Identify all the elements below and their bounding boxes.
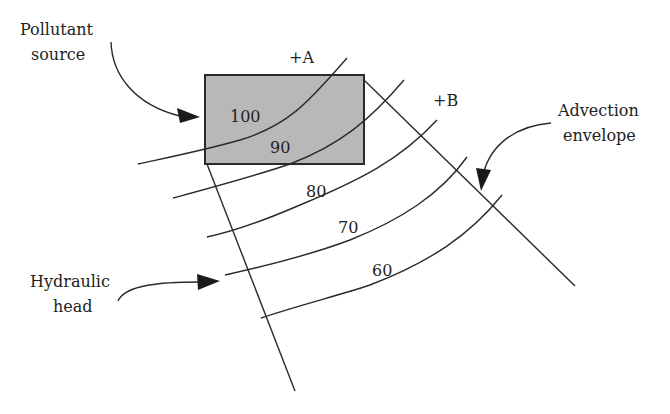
advection-envelope-label-line2: envelope xyxy=(563,126,636,145)
point-a-label: +A xyxy=(289,48,314,67)
advection-envelope-label-line1: Advection xyxy=(557,101,639,120)
contour-label-70: 70 xyxy=(338,218,358,237)
hydraulic-head-label-line1: Hydraulic xyxy=(30,272,110,291)
contour-label-100: 100 xyxy=(230,107,261,126)
pollutant-source-arrow xyxy=(111,42,180,116)
advection-envelope-right-line xyxy=(364,80,575,286)
hydraulic-head-label-line2: head xyxy=(53,297,93,316)
hydraulic-head-diagram: 100 90 80 70 60 +A +B Pollutant source A… xyxy=(0,0,670,414)
hydraulic-head-arrowhead-icon xyxy=(197,274,220,290)
hydraulic-head-arrow xyxy=(118,282,200,301)
advection-envelope-arrowhead-icon xyxy=(476,168,491,191)
advection-envelope-arrow xyxy=(483,123,551,175)
pollutant-source-label-line2: source xyxy=(31,45,85,64)
advection-envelope-left-line xyxy=(207,164,295,391)
contour-label-80: 80 xyxy=(306,182,326,201)
pollutant-source-arrowhead-icon xyxy=(177,108,200,123)
contour-70 xyxy=(225,157,467,275)
pollutant-source-label-line1: Pollutant xyxy=(20,20,94,39)
contour-label-60: 60 xyxy=(372,261,392,280)
point-b-label: +B xyxy=(433,91,458,110)
contour-label-90: 90 xyxy=(270,138,290,157)
